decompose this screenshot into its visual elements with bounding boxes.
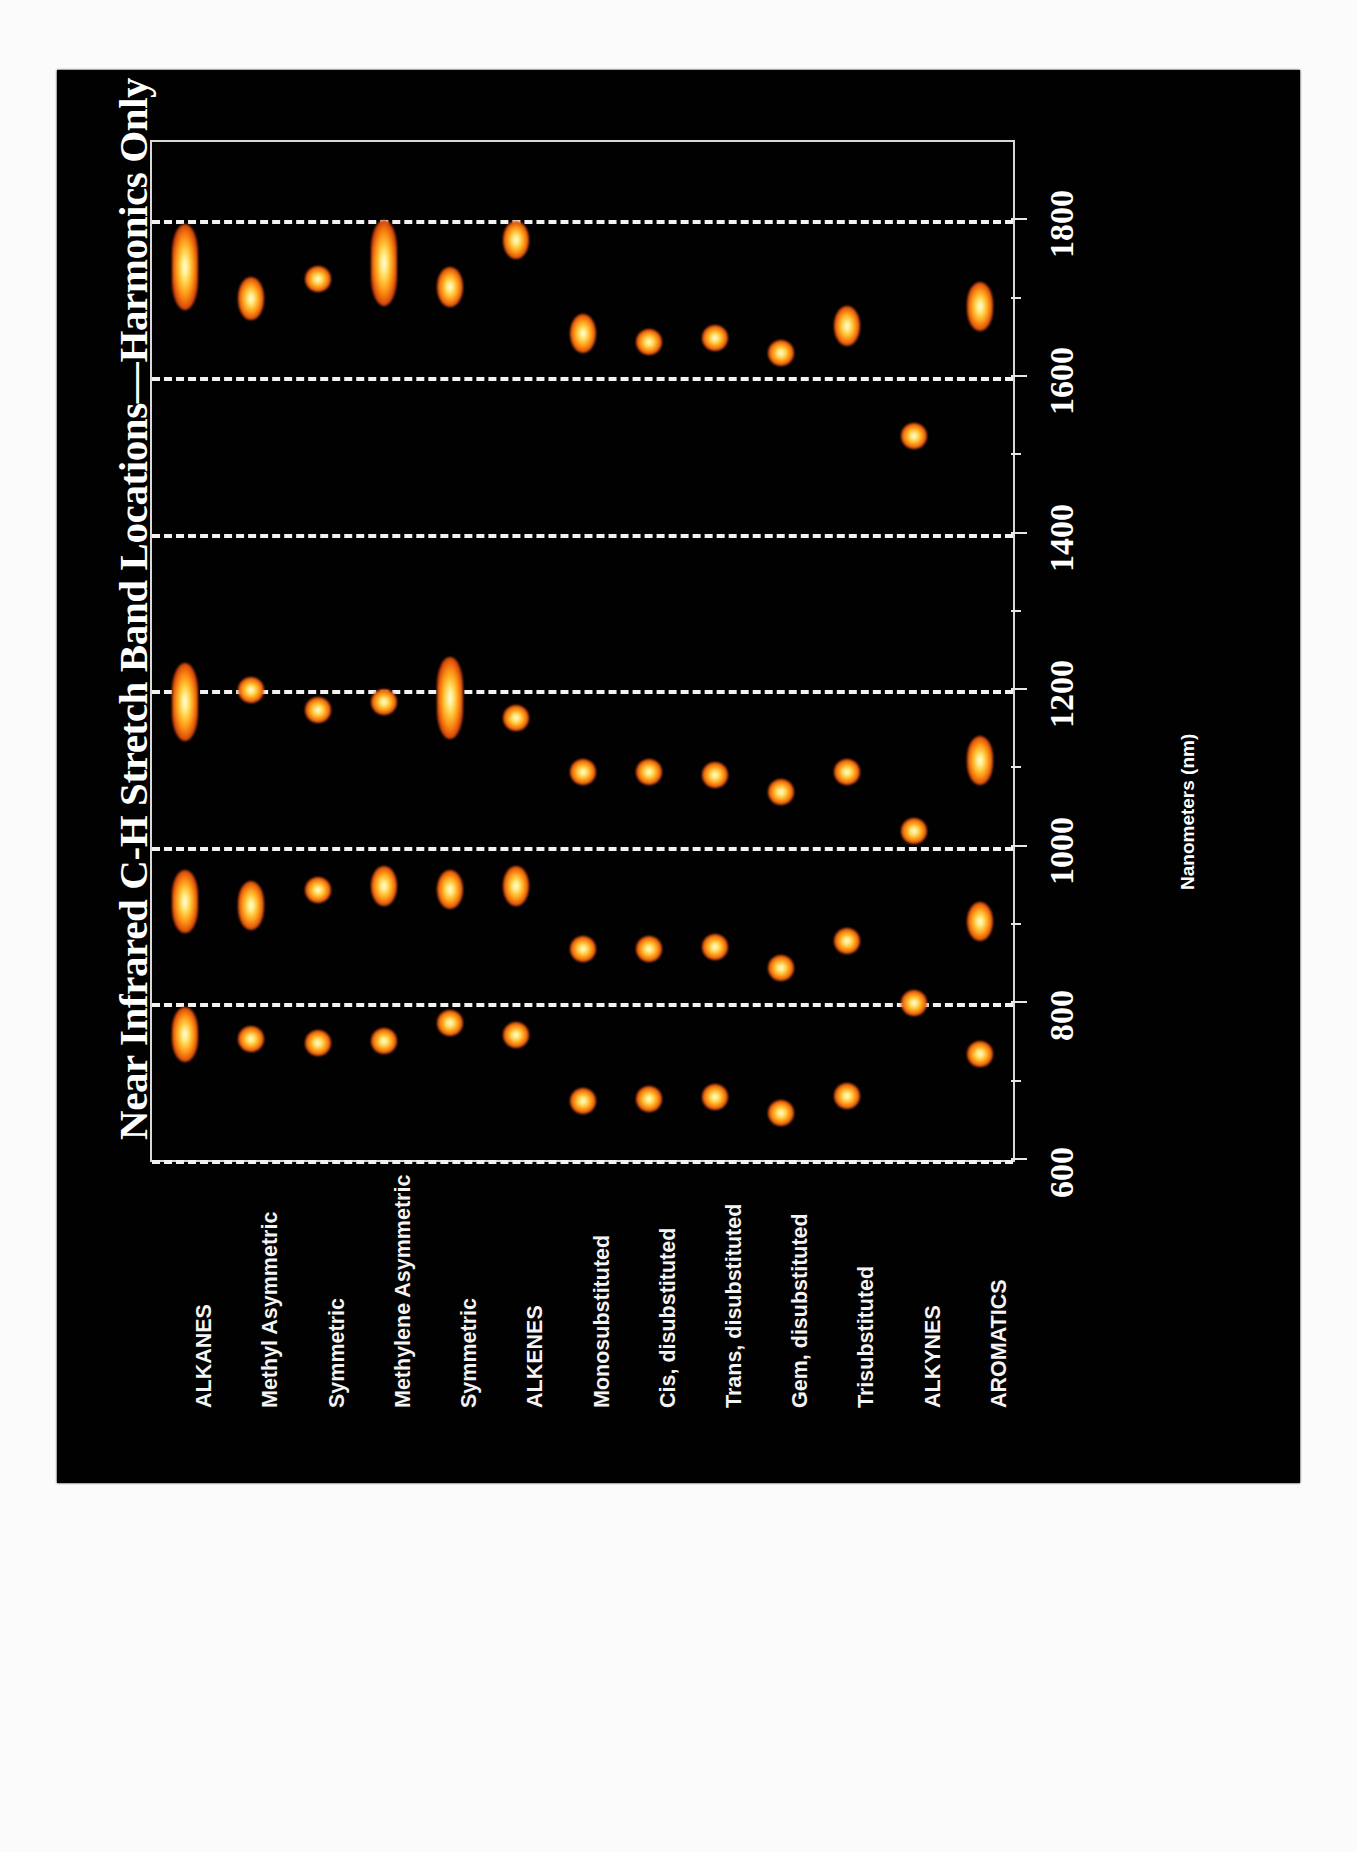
band-spot — [702, 934, 728, 960]
band-spot — [172, 870, 198, 933]
axis-tick-1600 — [1011, 375, 1027, 377]
band-spot — [768, 340, 794, 366]
axis-tick-900 — [1011, 923, 1021, 925]
band-spot — [503, 866, 529, 907]
gridline-1600 — [152, 377, 1013, 381]
axis-tick-1000 — [1011, 845, 1027, 847]
axis-tick-1500 — [1011, 453, 1021, 455]
axis-tick-1700 — [1011, 297, 1021, 299]
axis-tick-1400 — [1011, 532, 1027, 534]
band-spot — [437, 870, 463, 909]
band-spot — [437, 267, 463, 308]
axis-tick-600 — [1011, 1158, 1027, 1160]
band-spot — [702, 1084, 728, 1110]
category-label-methylene-asymmetric: Methylene Asymmetric — [391, 1175, 416, 1408]
band-spot — [834, 1083, 860, 1109]
band-spot — [834, 306, 860, 345]
band-spot — [768, 779, 794, 805]
band-spot — [967, 736, 993, 785]
gridline-800 — [152, 1003, 1013, 1007]
band-spot — [636, 1086, 662, 1112]
gridline-1000 — [152, 847, 1013, 851]
axis-tick-1100 — [1011, 766, 1021, 768]
band-spot — [768, 955, 794, 981]
band-spot — [503, 221, 529, 259]
band-spot — [636, 759, 662, 785]
gridline-1200 — [152, 690, 1013, 694]
band-spot — [172, 1007, 198, 1062]
band-spot — [305, 1030, 331, 1056]
band-spot — [503, 1022, 529, 1048]
band-spot — [834, 928, 860, 954]
band-spot — [702, 762, 728, 788]
band-spot — [172, 663, 198, 741]
band-spot — [238, 1026, 264, 1052]
category-label-symmetric: Symmetric — [457, 1298, 482, 1408]
axis-title: Nanometers (nm) — [1177, 734, 1199, 890]
gridline-600 — [152, 1160, 1013, 1164]
band-spot — [768, 1100, 794, 1126]
axis-tick-label-1000: 1000 — [1043, 817, 1081, 885]
band-spot — [305, 266, 331, 292]
category-label-gem-disubstituted: Gem, disubstituted — [788, 1213, 813, 1408]
category-label-cis-disubstituted: Cis, disubstituted — [656, 1228, 681, 1408]
axis-tick-1300 — [1011, 610, 1021, 612]
category-label-symmetric: Symmetric — [325, 1298, 350, 1408]
band-spot — [570, 314, 596, 353]
band-spot — [371, 220, 397, 306]
axis-tick-label-600: 600 — [1043, 1147, 1081, 1198]
axis-tick-1200 — [1011, 688, 1027, 690]
band-spot — [834, 759, 860, 785]
category-label-monosubstituted: Monosubstituted — [590, 1235, 615, 1408]
band-spot — [702, 325, 728, 351]
axis-tick-label-1600: 1600 — [1043, 347, 1081, 415]
band-spot — [967, 902, 993, 941]
gridline-1400 — [152, 534, 1013, 538]
chart-slide: Near Infrared C-H Stretch Band Locations… — [57, 70, 1300, 1483]
band-spot — [371, 866, 397, 907]
band-spot — [967, 282, 993, 331]
band-spot — [570, 759, 596, 785]
band-spot — [503, 705, 529, 731]
axis-tick-label-1400: 1400 — [1043, 504, 1081, 572]
plot-area — [150, 140, 1015, 1162]
band-spot — [371, 1028, 397, 1054]
category-label-trans-disubstituted: Trans, disubstituted — [722, 1204, 747, 1408]
band-spot — [305, 877, 331, 903]
band-spot — [238, 277, 264, 320]
band-spot — [570, 1088, 596, 1114]
category-label-alkenes: ALKENES — [523, 1305, 548, 1408]
band-spot — [901, 990, 927, 1016]
axis-tick-800 — [1011, 1001, 1027, 1003]
axis-tick-label-800: 800 — [1043, 990, 1081, 1041]
band-spot — [570, 936, 596, 962]
band-spot — [901, 818, 927, 844]
category-label-aromatics: AROMATICS — [987, 1279, 1012, 1408]
band-spot — [172, 224, 198, 310]
axis-tick-1800 — [1011, 218, 1027, 220]
band-spot — [371, 689, 397, 715]
category-label-alkanes: ALKANES — [192, 1304, 217, 1408]
category-label-methyl-asymmetric: Methyl Asymmetric — [258, 1212, 283, 1408]
band-spot — [967, 1041, 993, 1067]
figure-page: Near Infrared C-H Stretch Band Locations… — [0, 0, 1357, 1852]
band-spot — [636, 936, 662, 962]
band-spot — [238, 881, 264, 930]
category-label-trisubstituted: Trisubstituted — [854, 1266, 879, 1408]
gridline-1800 — [152, 220, 1013, 224]
axis-tick-label-1800: 1800 — [1043, 190, 1081, 258]
axis-tick-label-1200: 1200 — [1043, 660, 1081, 728]
band-spot — [901, 423, 927, 449]
category-label-alkynes: ALKYNES — [921, 1305, 946, 1408]
band-spot — [437, 657, 463, 739]
band-spot — [238, 677, 264, 703]
band-spot — [636, 329, 662, 355]
axis-tick-700 — [1011, 1080, 1021, 1082]
band-spot — [305, 697, 331, 723]
band-spot — [437, 1010, 463, 1036]
